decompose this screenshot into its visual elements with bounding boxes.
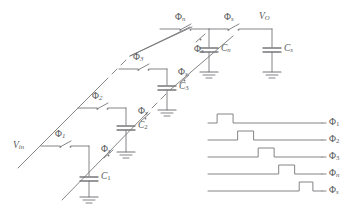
switch-blade-phi1 [60,141,71,147]
waveform-label-phi1: Φ1 [329,118,339,128]
stage3-phase-label: Φ3 [133,53,143,63]
caps-label: Cs [284,44,293,54]
stage2-phase-label: Φ2 [92,92,102,102]
waveform-label-phi2: Φ2 [329,135,339,145]
waveform-trace-n [208,165,322,174]
output-label: VO [259,12,270,22]
stage2-phis-label: Φs [138,107,148,117]
output-switch-label: Φs [224,13,234,23]
waveform-label-leaders [322,123,326,191]
capn-label: Cn [221,44,231,54]
stage1-phis-label: Φs [101,145,111,155]
stage1-network [41,141,98,203]
waveform-trace-2 [208,131,322,140]
cap1-label: C1 [101,172,111,182]
waveform-label-phis: Φs [329,186,339,196]
switch-blade-phi3 [138,64,149,70]
waveform-label-phi3: Φ3 [329,152,339,162]
waveform-label-phin: Φn [329,169,339,179]
cap2-label: C2 [138,121,148,131]
waveform-trace-s [208,182,322,191]
switch-blade-phi2 [97,103,108,109]
timing-waveform-group [208,114,322,191]
stagen-diag-switch [196,34,205,42]
input-label: Vin [13,141,24,151]
waveform-trace-3 [208,148,322,157]
stage3-phis-label: Φs [178,68,188,78]
switch-blade-phis-n [196,34,205,42]
lower-diagonal-rail [62,36,233,200]
figure-root: Vin Φ1 Φs C1 Φ2 Φs C2 Φ3 Φs C3 Φn Φs Cn … [0,0,351,211]
stagen-network [160,24,218,78]
waveform-trace-1 [208,114,322,123]
output-network [209,24,281,78]
schematic-svg [0,0,351,211]
switch-blade-phis-out [228,24,239,30]
cap3-label: C3 [179,82,189,92]
stagen-phis-label: Φs [194,45,204,55]
stage1-phase-label: Φ1 [55,130,65,140]
stagen-phase-label: Φn [175,13,185,23]
